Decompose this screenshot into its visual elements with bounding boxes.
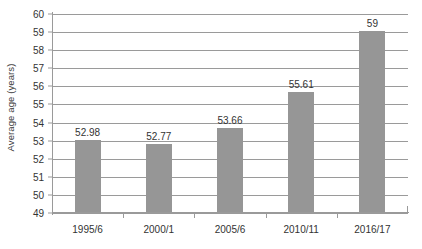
x-axis-category-label: 1995/6 xyxy=(72,224,103,235)
x-axis-category-label: 2016/17 xyxy=(354,224,390,235)
bar[interactable] xyxy=(288,92,314,212)
bar[interactable] xyxy=(359,31,385,212)
bar-value-label: 53.66 xyxy=(217,115,242,126)
y-axis-tick-label: 51 xyxy=(33,171,44,182)
bar-value-label: 59 xyxy=(367,18,378,29)
bar-group[interactable]: 55.61 xyxy=(266,14,337,212)
x-axis-category-labels: 1995/62000/12005/62010/112016/17 xyxy=(52,224,408,244)
y-axis-tick-label: 58 xyxy=(33,45,44,56)
bar-group[interactable]: 52.77 xyxy=(123,14,194,212)
y-axis-tick-label: 55 xyxy=(33,99,44,110)
y-axis-tick-label: 52 xyxy=(33,153,44,164)
x-axis-tick-mark xyxy=(194,213,195,218)
plot-area: 52.9852.7753.6655.6159 xyxy=(52,14,408,213)
y-axis-title-label: Average age (years) xyxy=(6,64,17,152)
bar[interactable] xyxy=(146,144,172,212)
x-axis-category-label: 2005/6 xyxy=(215,224,246,235)
bar-group[interactable]: 59 xyxy=(337,14,408,212)
y-axis-tick-label: 53 xyxy=(33,135,44,146)
bar-group[interactable]: 52.98 xyxy=(52,14,123,212)
bar[interactable] xyxy=(217,128,243,212)
y-axis-tick-label: 56 xyxy=(33,81,44,92)
y-axis-title: Average age (years) xyxy=(0,0,22,215)
y-axis-tick-label: 59 xyxy=(33,27,44,38)
y-axis-tick-label: 60 xyxy=(33,9,44,20)
bars-layer: 52.9852.7753.6655.6159 xyxy=(52,14,408,213)
x-axis-category-label: 2000/1 xyxy=(144,224,175,235)
y-axis-tick-labels: 605958575655545352515049 xyxy=(22,14,48,213)
x-axis-category-label: 2010/11 xyxy=(283,224,318,235)
bar-value-label: 52.98 xyxy=(75,127,100,138)
bar[interactable] xyxy=(75,140,101,212)
bar-chart: Average age (years) 60595857565554535251… xyxy=(0,0,422,249)
y-axis-tick-label: 49 xyxy=(33,208,44,219)
bar-group[interactable]: 53.66 xyxy=(194,14,265,212)
y-axis-tick-label: 50 xyxy=(33,189,44,200)
gridline xyxy=(52,213,408,214)
x-axis-tick-mark xyxy=(337,213,338,218)
bar-value-label: 55.61 xyxy=(289,79,314,90)
y-axis-tick-label: 57 xyxy=(33,63,44,74)
bar-value-label: 52.77 xyxy=(146,131,171,142)
x-axis-tick-mark xyxy=(123,213,124,218)
y-axis-tick-label: 54 xyxy=(33,117,44,128)
x-axis-tick-mark xyxy=(266,213,267,218)
